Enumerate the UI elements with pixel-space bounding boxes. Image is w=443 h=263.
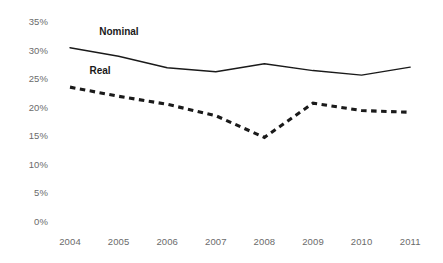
series-label-real: Real xyxy=(89,65,110,76)
plot-area xyxy=(0,0,443,263)
series-line-nominal xyxy=(70,48,410,75)
series-label-nominal: Nominal xyxy=(99,26,138,37)
line-chart: 35%30%25%20%15%10%5%0% 20042005200620072… xyxy=(0,0,443,263)
series-line-real xyxy=(70,87,410,137)
